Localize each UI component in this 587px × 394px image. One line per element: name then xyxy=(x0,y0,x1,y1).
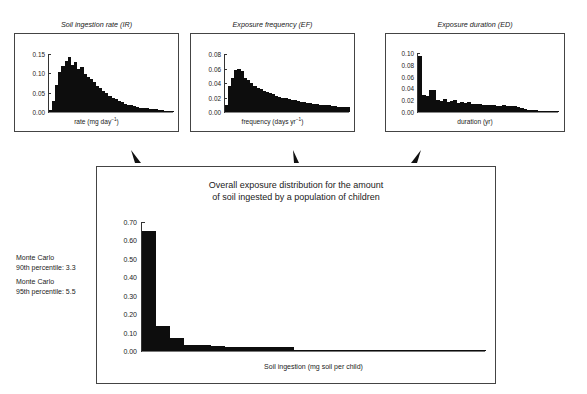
histogram-bar xyxy=(416,350,430,351)
ytick-label: 0.00 xyxy=(107,348,137,355)
monte-carlo-90-line1: Monte Carlo xyxy=(16,253,76,263)
plot-area-soil-ingestion-rate: 0.15 0.10 0.05 0.00 rate (mg day−1) xyxy=(15,34,178,131)
x-axis-line xyxy=(49,112,173,113)
ytick-label: 0.08 xyxy=(390,61,414,68)
histogram-bar xyxy=(458,350,472,351)
ytick-label: 0.00 xyxy=(390,109,414,116)
x-axis-line xyxy=(225,112,349,113)
histogram-bar xyxy=(334,350,348,351)
ytick-label: 0.04 xyxy=(390,85,414,92)
x-axis-line xyxy=(142,351,485,352)
ytick-label: 0.15 xyxy=(21,51,45,58)
histogram-bar xyxy=(279,347,293,351)
ytick-label: 0.30 xyxy=(107,292,137,299)
histogram-bar xyxy=(265,347,279,351)
chart-title-exposure-duration: Exposure duration (ED) xyxy=(385,20,565,29)
ytick-label: 0.60 xyxy=(107,237,137,244)
histogram-bar xyxy=(211,346,225,351)
bars-overall-exposure xyxy=(142,222,485,351)
histogram-bar xyxy=(389,350,403,351)
plot-area-exposure-duration: 0.10 0.08 0.06 0.04 0.02 0.00 duration (… xyxy=(386,34,564,131)
xaxis-label-exposure-frequency: frequency (days yr−1) xyxy=(191,118,354,125)
histogram-bar xyxy=(293,350,307,351)
ytick-label: 0.00 xyxy=(21,109,45,116)
ytick-label: 0.02 xyxy=(390,97,414,104)
histogram-bar xyxy=(471,350,485,351)
monte-carlo-90th-annotation: Monte Carlo 90th percentile: 3.3 xyxy=(16,253,76,272)
panel-exposure-duration: 0.10 0.08 0.06 0.04 0.02 0.00 duration (… xyxy=(385,33,565,132)
ytick-label: 0.00 xyxy=(197,109,221,116)
histogram-bar xyxy=(252,347,266,351)
histogram-bar xyxy=(430,350,444,351)
histogram-bar xyxy=(362,350,376,351)
ytick-label: 0.10 xyxy=(107,329,137,336)
ytick-label: 0.08 xyxy=(197,51,221,58)
histogram-bar xyxy=(170,111,174,112)
histogram-bar xyxy=(183,345,197,351)
histogram-bar xyxy=(197,345,211,351)
ytick-label: 0.02 xyxy=(197,94,221,101)
xaxis-label-soil-ingestion-rate: rate (mg day−1) xyxy=(15,118,178,125)
histogram-bar xyxy=(224,347,238,351)
monte-carlo-95-line2: 95th percentile: 5.5 xyxy=(16,287,76,297)
histogram-bar xyxy=(375,350,389,351)
histogram-bar xyxy=(238,347,252,351)
xaxis-label-overall-exposure: Soil ingestion (mg soil per child) xyxy=(142,363,485,370)
histogram-bar xyxy=(346,107,350,112)
bars-soil-ingestion-rate xyxy=(49,54,173,112)
monte-carlo-95-line1: Monte Carlo xyxy=(16,277,76,287)
panel-overall-exposure: Overall exposure distribution for the am… xyxy=(96,166,496,384)
ytick-label: 0.10 xyxy=(390,50,414,57)
ytick-label: 0.04 xyxy=(197,80,221,87)
xaxis-label-exposure-duration: duration (yr) xyxy=(386,118,564,125)
arrow-head-ed xyxy=(411,150,421,163)
bars-exposure-duration xyxy=(418,53,558,112)
ytick-label: 0.20 xyxy=(107,311,137,318)
histogram-bar xyxy=(555,111,559,112)
chart-title-soil-ingestion-rate: Soil ingestion rate (IR) xyxy=(14,20,179,29)
panel-soil-ingestion-rate: 0.15 0.10 0.05 0.00 rate (mg day−1) xyxy=(14,33,179,132)
plot-area-exposure-frequency: 0.08 0.06 0.04 0.02 0.00 frequency (days… xyxy=(191,34,354,131)
histogram-bar xyxy=(320,350,334,351)
ytick-label: 0.05 xyxy=(21,89,45,96)
ytick-label: 0.70 xyxy=(107,219,137,226)
bars-exposure-frequency xyxy=(225,54,349,112)
histogram-bar xyxy=(307,350,321,351)
histogram-bar xyxy=(348,350,362,351)
monte-carlo-90-line2: 90th percentile: 3.3 xyxy=(16,263,76,273)
histogram-bar xyxy=(142,231,156,351)
plot-area-overall-exposure: 0.70 0.60 0.50 0.40 0.30 0.20 0.10 0.00 … xyxy=(97,167,495,383)
ytick-label: 0.40 xyxy=(107,274,137,281)
panel-exposure-frequency: 0.08 0.06 0.04 0.02 0.00 frequency (days… xyxy=(190,33,355,132)
ytick-label: 0.06 xyxy=(390,73,414,80)
arrow-head-ef xyxy=(293,150,299,163)
histogram-bar xyxy=(156,326,170,351)
chart-title-exposure-frequency: Exposure frequency (EF) xyxy=(190,20,355,29)
monte-carlo-95th-annotation: Monte Carlo 95th percentile: 5.5 xyxy=(16,277,76,296)
ytick-label: 0.50 xyxy=(107,255,137,262)
x-axis-line xyxy=(418,112,558,113)
ytick-label: 0.06 xyxy=(197,65,221,72)
arrow-head-ir xyxy=(131,150,141,163)
histogram-bar xyxy=(169,338,183,351)
ytick-label: 0.10 xyxy=(21,70,45,77)
histogram-bar xyxy=(403,350,417,351)
histogram-bar xyxy=(444,350,458,351)
